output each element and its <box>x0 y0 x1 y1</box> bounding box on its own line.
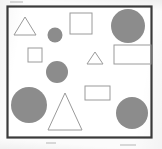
figure-canvas <box>0 0 162 149</box>
shapes-figure <box>0 0 162 149</box>
circle-filled-large-bottom-right <box>116 97 148 129</box>
circle-filled-small-upper-mid <box>48 28 63 43</box>
circle-filled-medium-center-left <box>46 61 68 83</box>
circle-filled-large-top-right <box>111 9 145 43</box>
circle-filled-large-bottom-left <box>11 87 47 123</box>
